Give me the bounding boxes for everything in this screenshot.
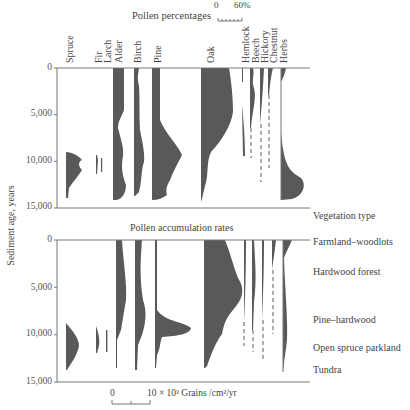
top-chestnut-area	[268, 68, 273, 95]
top-beech-area	[250, 68, 255, 128]
bottom-scale-bar	[112, 400, 150, 404]
top-birch-area	[134, 68, 144, 196]
top-scale-bar	[218, 18, 242, 21]
bottom-hickory-area	[262, 240, 264, 320]
top-herbs-area	[281, 68, 304, 200]
bottom-birch-area	[135, 240, 146, 370]
top-spruce-area	[66, 152, 82, 198]
bottom-larch-bar	[106, 330, 107, 352]
top-larch-bar	[101, 158, 102, 172]
top-fir-bar	[96, 155, 98, 174]
bottom-oak-area	[204, 240, 242, 368]
top-alder-area	[113, 68, 126, 200]
bottom-beech-area	[252, 240, 256, 330]
top-hemlock-area	[242, 68, 245, 156]
bottom-alder-area	[116, 240, 126, 368]
bottom-pine-area	[155, 240, 191, 368]
top-hickory-area	[260, 68, 264, 124]
pollen-diagram	[0, 0, 410, 410]
top-oak-area	[201, 68, 233, 202]
bottom-fir-area	[96, 326, 99, 353]
bottom-chestnut-area	[272, 240, 276, 270]
bottom-spruce-area	[66, 323, 79, 370]
bottom-herbs-area	[283, 240, 292, 372]
top-pine-area	[152, 68, 182, 200]
bottom-hemlock-area	[244, 240, 246, 322]
